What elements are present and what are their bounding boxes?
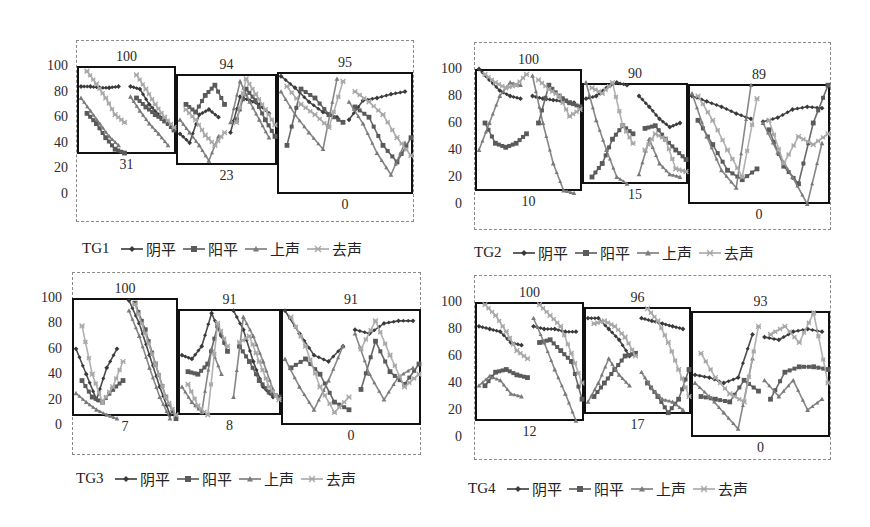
legend-item-yinping: 阴平 bbox=[506, 478, 562, 499]
legend-item-yangping: 阳平 bbox=[568, 478, 624, 499]
line-series bbox=[0, 0, 870, 527]
diamond-marker-icon bbox=[506, 484, 530, 494]
series-4 bbox=[483, 302, 831, 404]
legend-item-qusheng: 去声 bbox=[692, 478, 748, 499]
legend: TG4 阴平 阳平 上声 去声 bbox=[468, 478, 748, 499]
star-marker-icon bbox=[692, 484, 716, 494]
series-1 bbox=[477, 316, 825, 386]
legend-title: TG4 bbox=[468, 480, 496, 497]
series-2 bbox=[483, 337, 831, 415]
legend-item-shangsheng: 上声 bbox=[630, 478, 686, 499]
triangle-marker-icon bbox=[630, 484, 654, 494]
square-marker-icon bbox=[568, 484, 592, 494]
